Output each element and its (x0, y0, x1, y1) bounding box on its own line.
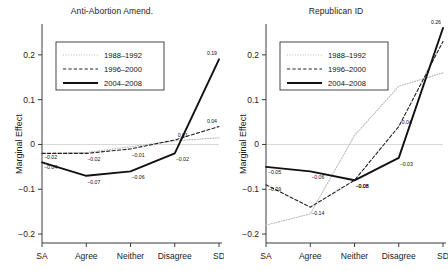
data-point-label: −0.06 (311, 174, 324, 180)
x-tick-label-disagree: Disagree (382, 251, 416, 261)
data-point-label: −0.02 (87, 156, 100, 162)
x-tick-label-neither: Neither (117, 251, 145, 261)
data-point-label: −0.08 (356, 183, 369, 189)
x-tick-label-sd: SD (213, 251, 224, 261)
data-point-label: −0.07 (87, 179, 100, 185)
y-tick-label: 0.2 (247, 50, 259, 60)
figure-root: Anti-Abortion Amend. Marginal Effect 0.2… (0, 0, 448, 271)
x-tick-label-agree: Agree (299, 251, 322, 261)
legend-label: 1996–2000 (328, 65, 366, 74)
data-point-label: 0.26 (431, 19, 441, 25)
x-tick-label-neither: Neither (341, 251, 369, 261)
y-tick-label: 0 (254, 139, 259, 149)
series-line-1988-1992 (42, 138, 219, 154)
panel-republican-id: Republican ID Marginal Effect 0.20.10−0.… (224, 0, 448, 271)
data-point-label: 0.04 (207, 118, 217, 124)
data-point-label: −0.02 (176, 156, 189, 162)
x-tick-label-sa: SA (36, 251, 48, 261)
y-tick-label: 0.2 (23, 50, 35, 60)
data-point-label: −0.14 (311, 210, 324, 216)
legend-label: 1988–1992 (104, 51, 142, 60)
data-point-label: −0.09 (268, 186, 281, 192)
panel-anti-abortion: Anti-Abortion Amend. Marginal Effect 0.2… (0, 0, 224, 271)
data-point-label: −0.02 (44, 154, 57, 160)
data-point-label: −0.06 (132, 174, 145, 180)
series-line-1988-1992 (266, 73, 443, 225)
data-point-label: −0.05 (268, 169, 281, 175)
x-tick-label-agree: Agree (75, 251, 98, 261)
y-tick-label: 0 (30, 139, 35, 149)
y-tick-label: 0.1 (23, 95, 35, 105)
y-tick-label: −0.1 (242, 184, 259, 194)
y-tick-label: −0.2 (242, 229, 259, 239)
legend-label: 2004–2008 (104, 79, 142, 88)
legend-label: 1988–1992 (328, 51, 366, 60)
y-tick-label: 0.1 (247, 95, 259, 105)
data-point-label: −0.01 (132, 152, 145, 158)
plot-area-left: 0.20.10−0.1−0.2SAAgreeNeitherDisagreeSD−… (0, 0, 224, 271)
x-tick-label-disagree: Disagree (158, 251, 192, 261)
data-point-label: 0.19 (207, 50, 217, 56)
data-point-label: −0.03 (400, 161, 413, 167)
plot-area-right: 0.20.10−0.1−0.2SAAgreeNeitherDisagreeSD−… (224, 0, 448, 271)
x-tick-label-sa: SA (260, 251, 272, 261)
x-tick-label-sd: SD (437, 251, 448, 261)
y-tick-label: −0.1 (18, 184, 35, 194)
data-point-label: −0.04 (44, 164, 57, 170)
data-point-label: 0.04 (402, 119, 412, 125)
legend-label: 1996–2000 (104, 65, 142, 74)
y-tick-label: −0.2 (18, 229, 35, 239)
legend-label: 2004–2008 (328, 79, 366, 88)
data-point-label: 0.01 (178, 132, 188, 138)
